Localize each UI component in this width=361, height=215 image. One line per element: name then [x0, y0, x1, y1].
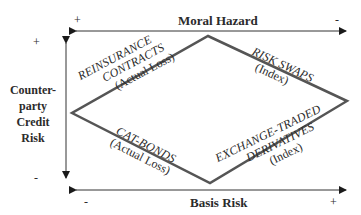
vertical-label-line: Counter-	[4, 82, 62, 98]
vertical-axis-label: Counter- party Credit Risk	[4, 82, 62, 146]
top-axis-left-sign: +	[74, 14, 81, 27]
top-axis-right-sign: -	[335, 14, 339, 27]
top-axis-label: Moral Hazard	[178, 14, 258, 27]
bottom-axis-left-sign: -	[84, 196, 88, 209]
vertical-axis-top-sign: +	[33, 36, 40, 49]
vertical-axis-bottom-sign: -	[34, 172, 38, 185]
vertical-label-line: party	[4, 98, 62, 114]
bottom-axis-right-sign: +	[330, 196, 337, 209]
vertical-label-line: Credit	[4, 114, 62, 130]
vertical-label-line: Risk	[4, 130, 62, 146]
bottom-axis-label: Basis Risk	[190, 196, 247, 209]
